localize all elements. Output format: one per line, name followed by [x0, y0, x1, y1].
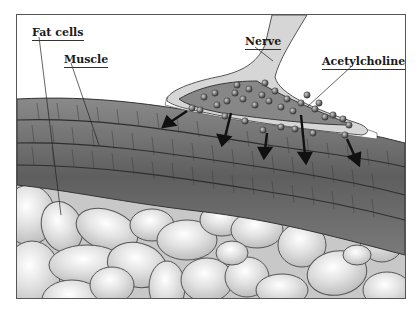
- label-acetylcholine: Acetylcholine: [322, 55, 405, 70]
- label-fat-cells: Fat cells: [32, 26, 84, 41]
- neuromuscular-junction-figure: Fat cells Muscle Nerve Acetylcholine: [16, 14, 406, 299]
- label-nerve: Nerve: [245, 35, 281, 50]
- label-muscle: Muscle: [64, 53, 108, 68]
